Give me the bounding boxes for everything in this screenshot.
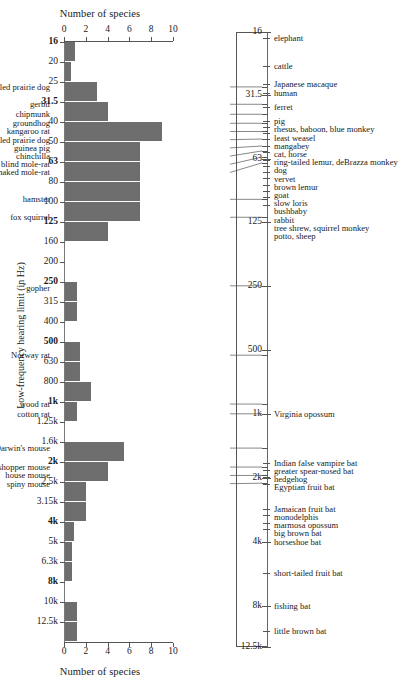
species-tick <box>263 463 270 464</box>
species-label: ferret <box>274 103 293 112</box>
species-tick <box>263 477 270 478</box>
species-axis-tick <box>262 350 271 351</box>
species-tick <box>263 529 270 530</box>
species-axis-tick-label: 125 <box>228 217 262 227</box>
species-tick <box>263 127 270 128</box>
species-axis-tick-label: 8k <box>228 601 262 611</box>
species-axis-tick <box>262 32 271 33</box>
species-label: Darwin's mouse <box>0 444 50 453</box>
species-axis-tick-label: 31.5 <box>228 90 262 100</box>
species-label: short-tailed fruit bat <box>274 569 343 578</box>
species-tick <box>263 166 270 167</box>
species-tick <box>263 107 270 108</box>
species-label: human <box>274 89 297 98</box>
species-tick <box>262 475 268 476</box>
species-tick <box>262 467 268 468</box>
species-axis-tick-label: 4k <box>228 537 262 547</box>
species-tick <box>262 355 268 356</box>
species-tick <box>263 38 270 39</box>
species-label: fox squirrel <box>10 213 50 222</box>
species-axis-tick-label: 1k <box>228 409 262 419</box>
species-label: fishing bat <box>274 602 311 611</box>
species-label: elephant <box>274 34 303 43</box>
species-tick <box>262 199 268 200</box>
species-tick <box>263 133 270 134</box>
species-tick <box>263 631 270 632</box>
species-tick <box>262 483 268 484</box>
species-tick <box>262 104 268 105</box>
species-tick <box>263 484 270 485</box>
species-tick <box>263 606 270 607</box>
species-axis-tick-label: 16 <box>228 27 262 37</box>
species-label: naked mole-rat <box>0 168 50 177</box>
species-tick <box>263 66 270 67</box>
figure-root: Number of species Number of species Low-… <box>0 0 406 686</box>
species-label: Japanese macaque <box>274 80 337 89</box>
species-axis-tick-label: 250 <box>228 281 262 291</box>
species-label: wood rat <box>20 400 50 409</box>
species-tick <box>263 172 270 173</box>
species-tick <box>263 160 270 161</box>
species-axis-tick <box>262 95 271 96</box>
species-tick <box>263 178 270 179</box>
species-tick <box>262 163 268 164</box>
species-axis-tick <box>262 647 271 648</box>
species-label: Egyptian fruit bat <box>274 483 335 492</box>
species-label: spiny mouse <box>7 480 50 489</box>
species-tick <box>263 222 270 223</box>
species-tick <box>262 139 268 140</box>
species-label: cotton rat <box>17 410 50 419</box>
species-tick <box>262 404 268 405</box>
species-label: gerbil <box>30 100 50 109</box>
species-tick <box>263 573 270 574</box>
species-tick <box>262 414 268 415</box>
species-label: Virginia opossum <box>274 410 335 419</box>
species-tick <box>262 157 268 158</box>
species-tick <box>263 152 270 153</box>
species-label: little brown bat <box>274 627 327 636</box>
species-axis-tick-label: 2k <box>228 473 262 483</box>
species-tick <box>262 131 268 132</box>
species-tick <box>263 542 270 543</box>
species-tick <box>262 217 268 218</box>
species-label: hamster <box>23 195 50 204</box>
species-tick <box>262 87 268 88</box>
species-tick <box>262 146 268 147</box>
species-labels-left: black-tailed prairie doggerbilchipmunkgr… <box>0 0 228 686</box>
species-axis-tick-label: 500 <box>228 345 262 355</box>
species-axis-tick-label: 63 <box>228 154 262 164</box>
species-tick <box>263 515 270 516</box>
species-label: horseshoe bat <box>274 538 321 547</box>
species-tick <box>263 191 270 192</box>
species-label: Norway rat <box>11 351 50 360</box>
species-axis-tick-label: 12.5k <box>228 642 262 652</box>
species-tick <box>263 93 270 94</box>
species-axis-tick <box>262 478 271 479</box>
species-tick <box>263 121 270 122</box>
species-tick <box>262 114 268 115</box>
species-tick <box>262 151 268 152</box>
species-label: potto, sheep <box>274 232 316 241</box>
species-label: cattle <box>274 62 293 71</box>
species-tick <box>263 523 270 524</box>
species-label: black-tailed prairie dog <box>0 83 50 92</box>
species-label: ring-tailed lemur, deBrazza monkey <box>274 158 398 167</box>
species-tick <box>263 205 270 206</box>
species-tick <box>263 509 270 510</box>
species-tick <box>262 448 268 449</box>
species-label: *gopher <box>23 282 50 292</box>
species-tick <box>263 197 270 198</box>
species-tick <box>263 185 270 186</box>
species-tick <box>263 84 270 85</box>
species-tick <box>262 286 268 287</box>
species-tick <box>263 470 270 471</box>
species-tick <box>262 123 268 124</box>
